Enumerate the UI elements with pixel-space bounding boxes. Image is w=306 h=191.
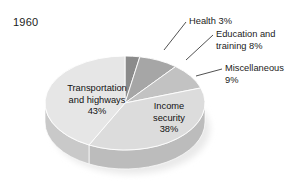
slice-label-transportation-line3: 43%: [49, 106, 145, 118]
slice-label-income-line3: 38%: [140, 124, 198, 136]
slice-label-income: Income security 38%: [140, 101, 198, 136]
leader-line-miscellaneous: [196, 69, 222, 76]
callout-miscellaneous: Miscellaneous 9%: [225, 63, 284, 86]
callout-miscellaneous-line2: 9%: [225, 75, 284, 87]
callout-education-line1: Education and: [216, 29, 275, 41]
pie-chart-figure: 1960 Health 3% Education and training 8%…: [0, 0, 306, 191]
slice-label-income-line1: Income: [140, 101, 198, 113]
slice-label-transportation-line1: Transportation: [49, 83, 145, 95]
callout-education: Education and training 8%: [216, 29, 275, 52]
callout-miscellaneous-line1: Miscellaneous: [225, 63, 284, 75]
leader-line-health: [164, 22, 186, 50]
callout-health: Health 3%: [189, 16, 232, 28]
leader-line-education: [186, 35, 213, 60]
slice-label-income-line2: security: [140, 113, 198, 125]
slice-label-transportation-line2: and highways: [49, 95, 145, 107]
callout-education-line2: training 8%: [216, 41, 275, 53]
slice-label-transportation: Transportation and highways 43%: [49, 83, 145, 118]
callout-health-line1: Health 3%: [189, 16, 232, 26]
